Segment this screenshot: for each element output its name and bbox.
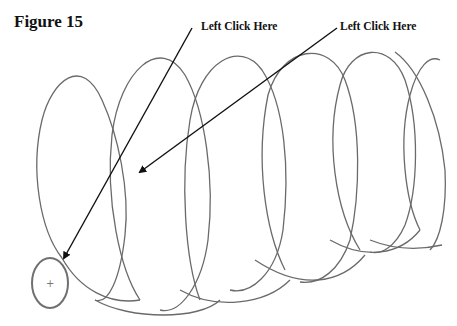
helix-path[interactable]: [37, 52, 445, 315]
arrow-to-helix: [140, 28, 337, 172]
arrow-to-circle: [64, 28, 192, 258]
profile-circle[interactable]: +: [32, 258, 68, 308]
center-mark: +: [46, 278, 54, 289]
helix-drawing: +: [0, 0, 457, 326]
